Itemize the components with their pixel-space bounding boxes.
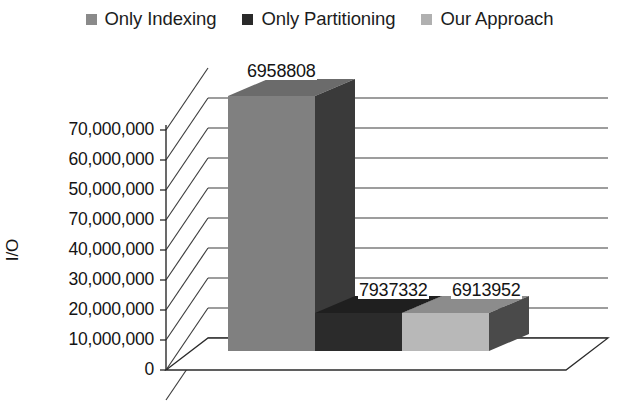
data-label-only-indexing: 6958808 [246, 62, 317, 80]
y-tick-label-2: 50,000,000 [26, 181, 154, 199]
y-tick-label-3: 70,000,000 [26, 211, 154, 229]
bar-only-indexing-front [228, 96, 315, 351]
bar-our-approach-front [402, 313, 489, 351]
y-tick-label-6: 20,000,000 [26, 301, 154, 319]
y-tick-label-8: 0 [26, 361, 154, 379]
y-axis-title: I/O [3, 239, 23, 262]
chart-root: Only Indexing Only Partitioning Our Appr… [0, 0, 639, 413]
y-tick-label-0: 70,000,000 [26, 121, 154, 139]
data-label-our-approach: 6913952 [451, 281, 522, 299]
bar-only-partitioning-front [315, 313, 402, 351]
y-tick-label-1: 60,000,000 [26, 151, 154, 169]
y-tick-label-4: 40,000,000 [26, 241, 154, 259]
y-axis-ticks [160, 130, 166, 370]
y-tick-label-7: 10,000,000 [26, 331, 154, 349]
plot-area [0, 0, 639, 413]
data-label-only-partitioning: 7937332 [358, 281, 429, 299]
y-tick-label-5: 30,000,000 [26, 271, 154, 289]
